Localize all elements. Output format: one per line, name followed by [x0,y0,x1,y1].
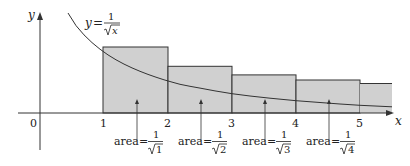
x-tick-3: 3 [228,117,235,130]
area-label-4-rad: 4 [348,144,354,155]
x-tick-5: 5 [356,117,363,130]
area-label-4: area = 1 4 [306,129,355,155]
area-label-1-eq: = [139,135,148,148]
area-label-1-rad: 1 [156,144,162,155]
y-axis-label: y [27,8,35,22]
x-tick-4: 4 [292,117,299,130]
rectangles [103,47,392,113]
area-label-2: area = 1 2 [178,129,227,155]
area-label-2-num: 1 [217,129,223,140]
function-label-lhs: y [84,16,92,30]
rectangle-3 [232,75,296,113]
area-label-3-rad: 3 [284,144,290,155]
x-tick-1: 1 [100,117,107,130]
area-label-2-prefix: area [178,135,203,148]
function-label-rad: x [112,25,118,36]
origin-label: 0 [30,117,37,130]
area-label-3: area = 1 3 [242,129,291,155]
function-label: y = 1 x [84,11,120,36]
rectangle-4 [296,80,360,113]
area-label-4-num: 1 [345,129,351,140]
area-label-4-eq: = [331,135,340,148]
x-tick-2: 2 [164,117,171,130]
x-axis-label: x [395,114,402,128]
area-label-3-prefix: area [242,135,267,148]
function-label-eq: = [93,16,103,30]
area-label-1-num: 1 [153,129,159,140]
area-label-2-rad: 2 [220,144,226,155]
function-label-num: 1 [108,11,114,22]
diagram-canvas: y x 0 1 2 3 4 5 y = 1 x area = 1 1 area … [0,0,410,166]
rectangle-5-partial [360,84,392,114]
area-label-4-prefix: area [306,135,331,148]
area-label-3-eq: = [267,135,276,148]
y-axis-arrow-icon [37,12,43,20]
rectangle-2 [168,66,232,113]
area-label-2-eq: = [203,135,212,148]
area-label-1: area = 1 1 [114,129,163,155]
area-label-3-num: 1 [281,129,287,140]
area-label-1-prefix: area [114,135,139,148]
